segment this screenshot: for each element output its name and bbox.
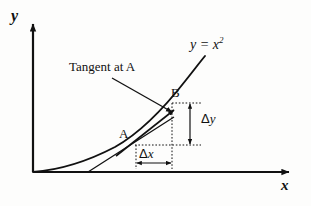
point-a-label: A (119, 127, 128, 140)
delta-x-symbol: Δ (139, 146, 148, 161)
curve-equation-exponent: 2 (219, 35, 224, 45)
y-axis-label: y (11, 8, 18, 24)
delta-y-label: Δy (201, 112, 215, 125)
delta-x-variable: x (148, 146, 154, 161)
figure-container: y x y = x2 Tangent at A A B Δy Δx (0, 0, 311, 206)
point-b-label: B (171, 86, 180, 99)
curve-equation-base: y = x (190, 37, 219, 52)
curve-equation-label: y = x2 (190, 38, 223, 52)
tangent-annotation-label: Tangent at A (69, 60, 135, 73)
delta-x-label: Δx (139, 147, 153, 160)
delta-y-variable: y (210, 111, 216, 126)
tangent-leader-line (112, 78, 172, 112)
delta-y-symbol: Δ (201, 111, 210, 126)
figure-canvas (0, 0, 311, 206)
x-axis-label: x (281, 178, 289, 193)
